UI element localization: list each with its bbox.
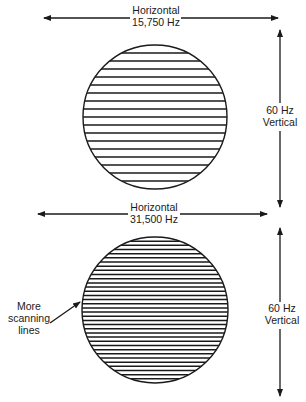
- callout-line-2: scanning: [6, 312, 52, 324]
- bottom-vertical-title: Vertical: [263, 314, 301, 326]
- bottom-horizontal-frequency: 31,500 Hz: [129, 213, 179, 225]
- top-horizontal-frequency: 15,750 Hz: [131, 16, 181, 28]
- top-vertical-frequency: 60 Hz: [260, 104, 300, 116]
- bottom-vertical-label: 60 Hz Vertical: [263, 302, 301, 326]
- bottom-horizontal-label: Horizontal 31,500 Hz: [129, 201, 179, 225]
- bottom-horizontal-title: Horizontal: [129, 201, 179, 213]
- top-horizontal-title: Horizontal: [131, 4, 181, 16]
- top-vertical-title: Vertical: [260, 116, 300, 128]
- callout-line-1: More: [6, 300, 52, 312]
- bottom-vertical-frequency: 60 Hz: [263, 302, 301, 314]
- bottom-raster-circle: [60, 237, 250, 383]
- top-horizontal-label: Horizontal 15,750 Hz: [131, 4, 181, 28]
- callout-line-3: lines: [6, 324, 52, 336]
- top-vertical-label: 60 Hz Vertical: [260, 104, 300, 128]
- callout-arrow: [50, 302, 80, 323]
- more-scanning-lines-callout: More scanning lines: [6, 300, 52, 336]
- top-raster-circle: [60, 45, 250, 189]
